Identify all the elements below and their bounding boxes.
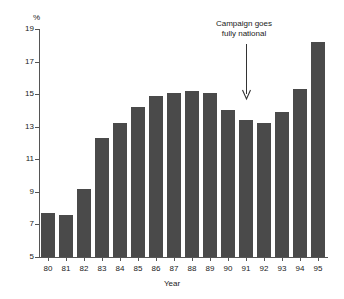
annotation-campaign-note: Campaign goes fully national (196, 19, 292, 38)
bar (203, 93, 217, 257)
x-axis-line (39, 257, 328, 258)
x-tick-mark (264, 257, 265, 261)
down-arrow-icon (241, 44, 252, 106)
x-tick-mark (102, 257, 103, 261)
y-tick-label: 15 (25, 89, 34, 98)
y-tick-label: 19 (25, 24, 34, 33)
x-tick-mark (174, 257, 175, 261)
y-tick-mark (35, 159, 39, 160)
y-tick-mark (35, 257, 39, 258)
x-tick-mark (156, 257, 157, 261)
x-tick-label: 81 (62, 264, 71, 273)
y-tick-label: 7 (30, 219, 34, 228)
bar (149, 96, 163, 257)
bar (275, 112, 289, 257)
y-tick-label: 17 (25, 57, 34, 66)
y-tick-label: 5 (30, 252, 34, 261)
plot-area: 5791113151719 (39, 29, 327, 257)
x-tick-label: 93 (278, 264, 287, 273)
x-tick-mark (246, 257, 247, 261)
x-tick-mark (48, 257, 49, 261)
x-tick-label: 80 (44, 264, 53, 273)
y-tick-mark (35, 94, 39, 95)
x-tick-label: 89 (206, 264, 215, 273)
x-tick-label: 88 (188, 264, 197, 273)
x-tick-mark (282, 257, 283, 261)
bar (167, 93, 181, 257)
bar (131, 107, 145, 257)
bar (239, 120, 253, 257)
y-tick-label: 13 (25, 122, 34, 131)
x-tick-label: 95 (314, 264, 323, 273)
bar (95, 138, 109, 257)
x-tick-label: 82 (80, 264, 89, 273)
x-tick-mark (66, 257, 67, 261)
y-tick-mark (35, 29, 39, 30)
bar (293, 89, 307, 257)
y-tick-mark (35, 62, 39, 63)
x-tick-mark (210, 257, 211, 261)
bar (113, 123, 127, 257)
bar (257, 123, 271, 257)
bar (41, 213, 55, 257)
x-tick-label: 94 (296, 264, 305, 273)
x-tick-mark (318, 257, 319, 261)
x-tick-label: 85 (134, 264, 143, 273)
bar (311, 42, 325, 257)
bar-chart: % 5791113151719 808182838485868788899091… (0, 0, 344, 299)
y-tick-label: 9 (30, 187, 34, 196)
x-tick-label: 92 (260, 264, 269, 273)
x-tick-label: 86 (152, 264, 161, 273)
y-tick-label: 11 (26, 154, 34, 163)
y-tick-mark (35, 127, 39, 128)
bar-series (39, 29, 327, 257)
bar (221, 110, 235, 257)
x-tick-mark (138, 257, 139, 261)
annotation-line-2: fully national (196, 29, 292, 39)
annotation-line-1: Campaign goes (196, 19, 292, 29)
y-axis-unit-label: % (33, 13, 40, 22)
y-tick-mark (35, 224, 39, 225)
x-tick-label: 90 (224, 264, 233, 273)
x-tick-label: 83 (98, 264, 107, 273)
x-tick-label: 91 (242, 264, 251, 273)
bar (185, 91, 199, 257)
y-tick-mark (35, 192, 39, 193)
x-tick-label: 84 (116, 264, 125, 273)
x-tick-mark (120, 257, 121, 261)
x-tick-mark (300, 257, 301, 261)
x-axis-title: Year (0, 279, 344, 288)
bar (59, 215, 73, 257)
x-tick-mark (228, 257, 229, 261)
x-tick-label: 87 (170, 264, 179, 273)
x-tick-mark (84, 257, 85, 261)
x-tick-mark (192, 257, 193, 261)
bar (77, 189, 91, 257)
